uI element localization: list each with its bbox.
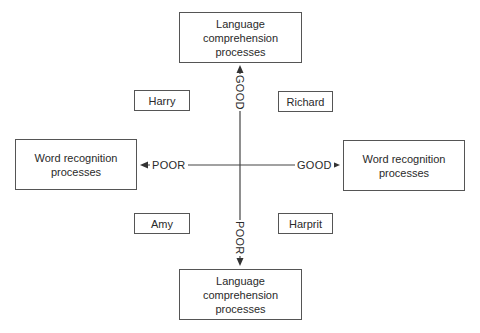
quadrant-bottom-right-harprit: Harprit xyxy=(278,213,333,234)
axis-label-left-poor: POOR xyxy=(150,159,188,171)
quadrant-bottom-left-amy: Amy xyxy=(134,213,190,234)
axis-label-up-good: GOOD xyxy=(234,74,246,111)
axis-label-right-good: GOOD xyxy=(295,159,334,171)
bottom-language-comprehension-box: Language comprehension processes xyxy=(179,269,302,320)
quadrant-top-right-richard: Richard xyxy=(278,91,333,112)
arrow-up-icon xyxy=(237,65,244,73)
arrow-down-icon xyxy=(237,258,244,266)
quadrant-top-left-harry: Harry xyxy=(134,90,190,111)
arrow-left-icon xyxy=(140,162,148,169)
axis-label-down-poor: POOR xyxy=(234,220,246,256)
left-word-recognition-box: Word recognition processes xyxy=(15,139,137,190)
right-word-recognition-box: Word recognition processes xyxy=(343,140,465,191)
top-language-comprehension-box: Language comprehension processes xyxy=(179,12,302,63)
